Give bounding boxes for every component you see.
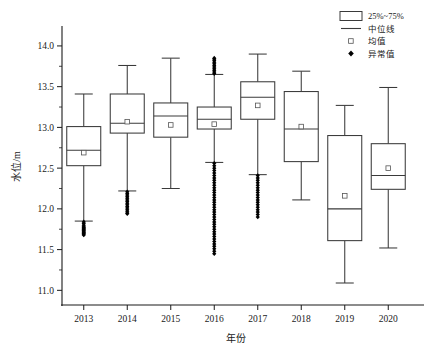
y-tick-label: 12.0 (37, 204, 54, 214)
boxplot-2015 (154, 58, 188, 188)
legend-label: 均值 (368, 36, 386, 46)
mean-marker (342, 194, 347, 199)
x-tick-label: 2016 (205, 314, 224, 324)
legend-item-0: 25%~75% (340, 11, 404, 21)
boxplot-2019 (328, 105, 362, 283)
x-tick-label: 2020 (379, 314, 398, 324)
box-iqr (328, 136, 362, 241)
outlier-point (256, 215, 260, 220)
boxplot-2017 (241, 54, 275, 219)
legend-item-3: 异常值 (348, 49, 395, 59)
legend-mean-icon (349, 39, 354, 44)
y-tick-label: 13.5 (37, 82, 54, 92)
boxplot-chart: 11.011.512.012.513.013.514.0201320142015… (0, 0, 428, 357)
outlier-point (212, 251, 216, 256)
boxplot-2016 (197, 56, 231, 256)
chart-canvas: 11.011.512.012.513.013.514.0201320142015… (0, 0, 428, 357)
x-tick-label: 2014 (118, 314, 137, 324)
x-tick-label: 2018 (292, 314, 311, 324)
mean-marker (125, 119, 130, 124)
mean-marker (168, 123, 173, 128)
box-iqr (241, 82, 275, 119)
y-tick-label: 12.5 (37, 164, 54, 174)
box-iqr (154, 103, 188, 137)
box-iqr (110, 94, 144, 133)
x-tick-label: 2017 (248, 314, 267, 324)
mean-marker (299, 124, 304, 129)
legend-outlier-icon (348, 51, 354, 57)
y-tick-label: 11.0 (38, 286, 55, 296)
x-axis-title: 年份 (226, 332, 246, 344)
boxplot-2013 (67, 94, 101, 237)
x-tick-label: 2019 (335, 314, 354, 324)
chart-legend: 25%~75%中位线均值异常值 (340, 11, 404, 59)
mean-marker (386, 166, 391, 171)
y-tick-label: 14.0 (37, 41, 54, 51)
box-iqr (67, 127, 101, 166)
axes: 11.011.512.012.513.013.514.0201320142015… (37, 26, 424, 324)
outlier-point (125, 211, 129, 216)
legend-box-icon (340, 12, 362, 21)
y-tick-label: 11.5 (38, 245, 55, 255)
box-series (67, 54, 406, 283)
boxplot-2014 (110, 65, 144, 216)
mean-marker (255, 103, 260, 108)
y-tick-label: 13.0 (37, 123, 54, 133)
boxplot-2020 (371, 87, 405, 247)
mean-marker (212, 122, 217, 127)
legend-item-2: 均值 (349, 36, 386, 46)
legend-label: 异常值 (368, 49, 395, 59)
legend-label: 25%~75% (368, 11, 404, 21)
x-tick-label: 2015 (161, 314, 180, 324)
legend-item-1: 中位线 (341, 24, 395, 34)
x-tick-label: 2013 (74, 314, 93, 324)
mean-marker (81, 150, 86, 155)
boxplot-2018 (284, 71, 318, 200)
y-axis-title: 水位/m (10, 151, 22, 182)
legend-label: 中位线 (368, 24, 395, 34)
